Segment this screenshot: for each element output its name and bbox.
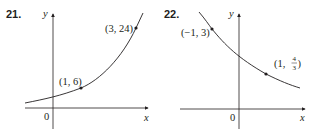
point-1-4-3 (264, 72, 267, 75)
x-axis-label: x (299, 112, 305, 123)
figures-canvas: (1, 6) (3, 24) y x 0 (−1, 3) (1, 4 3 ) y… (0, 0, 320, 137)
figure-21-graph: (1, 6) (3, 24) y x 0 (25, 8, 149, 129)
decay-curve (199, 12, 300, 88)
origin-label: 0 (230, 112, 235, 123)
origin-label: 0 (44, 111, 49, 122)
label-suffix: ) (298, 58, 302, 70)
point-3-24 (134, 26, 137, 29)
x-axis-label: x (143, 112, 149, 123)
fraction-denominator: 3 (293, 64, 297, 72)
fraction-numerator: 4 (293, 55, 297, 63)
point-label-1-6: (1, 6) (59, 76, 82, 88)
y-axis-label: y (228, 8, 234, 19)
y-axis-label: y (42, 8, 48, 19)
point-label-1-4-3: (1, 4 3 ) (274, 55, 302, 72)
point-label-3-24: (3, 24) (105, 23, 133, 35)
point-label-neg1-3: (−1, 3) (181, 27, 210, 39)
label-prefix: (1, (274, 58, 285, 70)
point-neg1-3 (210, 27, 213, 30)
figure-22-graph: (−1, 3) (1, 4 3 ) y x 0 (180, 8, 305, 129)
